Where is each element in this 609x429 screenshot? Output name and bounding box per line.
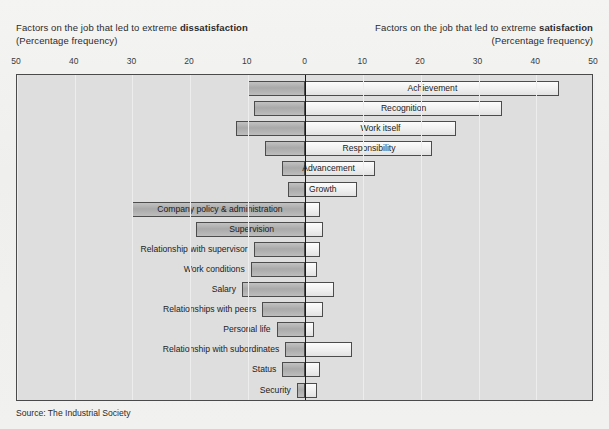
x-axis-tick-4: 10: [242, 56, 251, 66]
gridline-7: [421, 75, 422, 400]
bar-dissatisfaction[interactable]: [285, 342, 305, 357]
header-satisfaction: Factors on the job that led to extreme s…: [375, 22, 593, 47]
bar-dissatisfaction[interactable]: [277, 322, 306, 337]
header-dissatisfaction-prefix: Factors on the job that led to extreme: [16, 22, 180, 33]
bar-satisfaction[interactable]: [305, 242, 320, 257]
bar-dissatisfaction[interactable]: [242, 282, 305, 297]
header-satisfaction-prefix: Factors on the job that led to extreme: [375, 22, 539, 33]
bar-dissatisfaction[interactable]: [236, 121, 305, 136]
x-axis-tick-1: 40: [69, 56, 78, 66]
x-axis-tick-3: 20: [184, 56, 193, 66]
bar-label: Relationship with subordinates: [163, 343, 280, 356]
bar-label: Status: [252, 363, 276, 376]
bar-label: Security: [260, 384, 291, 397]
bar-satisfaction[interactable]: [305, 342, 352, 357]
bar-dissatisfaction[interactable]: [248, 81, 306, 96]
bar-label: Salary: [212, 283, 236, 296]
gridline-9: [536, 75, 537, 400]
bar-dissatisfaction[interactable]: [265, 141, 305, 156]
x-axis-tick-5: 0: [302, 56, 307, 66]
bar-label: Growth: [292, 183, 353, 196]
gridline-2: [132, 75, 133, 400]
header-dissatisfaction: Factors on the job that led to extreme d…: [16, 22, 248, 47]
x-axis-tick-10: 50: [588, 56, 597, 66]
header-satisfaction-keyword: satisfaction: [539, 22, 593, 33]
bar-dissatisfaction[interactable]: [251, 262, 306, 277]
bar-satisfaction[interactable]: [305, 222, 323, 237]
x-axis-tick-6: 10: [357, 56, 366, 66]
bar-label: Work conditions: [184, 263, 245, 276]
gridline-4: [248, 75, 249, 400]
bar-satisfaction[interactable]: [305, 362, 320, 377]
bar-dissatisfaction[interactable]: [262, 302, 305, 317]
gridline-6: [363, 75, 364, 400]
bar-satisfaction[interactable]: [305, 262, 317, 277]
gridline-3: [190, 75, 191, 400]
bar-satisfaction[interactable]: [305, 383, 317, 398]
x-axis-tick-8: 30: [473, 56, 482, 66]
gridline-1: [75, 75, 76, 400]
bar-label: Company policy & administration: [136, 203, 303, 216]
bar-label: Relationship with supervisor: [141, 243, 248, 256]
header-dissatisfaction-keyword: dissatisfaction: [180, 22, 248, 33]
bar-label: Relationships with peers: [163, 303, 256, 316]
bar-dissatisfaction[interactable]: [254, 242, 306, 257]
bar-dissatisfaction[interactable]: [282, 362, 305, 377]
x-axis-tick-7: 20: [415, 56, 424, 66]
bar-dissatisfaction[interactable]: [254, 101, 306, 116]
plot-area: AchievementRecognitionWork itselfRespons…: [16, 74, 593, 401]
bar-satisfaction[interactable]: [305, 202, 320, 217]
bar-label: Advancement: [286, 162, 370, 175]
bar-label: Achievement: [310, 82, 556, 95]
header-dissatisfaction-subtitle: (Percentage frequency): [16, 35, 117, 46]
header-satisfaction-subtitle: (Percentage frequency): [492, 35, 593, 46]
zero-axis-line: [305, 75, 307, 400]
bar-satisfaction[interactable]: [305, 282, 334, 297]
x-axis: 504030201001020304050: [0, 56, 609, 70]
bar-label: Recognition: [310, 102, 498, 115]
bar-label: Supervision: [200, 223, 304, 236]
gridline-8: [479, 75, 480, 400]
bar-label: Responsibility: [310, 142, 429, 155]
source-note: Source: The Industrial Society: [16, 408, 130, 418]
chart-page: Factors on the job that led to extreme d…: [0, 0, 609, 429]
x-axis-tick-2: 30: [127, 56, 136, 66]
x-axis-tick-0: 50: [11, 56, 20, 66]
gridline-0: [17, 75, 18, 400]
x-axis-tick-9: 40: [531, 56, 540, 66]
gridline-10: [594, 75, 595, 400]
bar-label: Work itself: [310, 122, 452, 135]
bar-satisfaction[interactable]: [305, 302, 323, 317]
